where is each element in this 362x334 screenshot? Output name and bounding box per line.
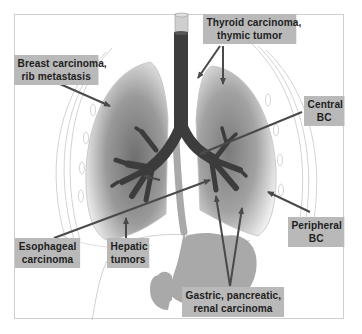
label-breast-carcinoma: Breast carcinoma, rib metastasis (14, 55, 98, 85)
label-line: tumors (111, 253, 146, 266)
label-line: thymic tumor (207, 29, 293, 42)
label-line: Hepatic (111, 240, 146, 253)
esophagus (176, 140, 184, 232)
label-thyroid-carcinoma: Thyroid carcinoma, thymic tumor (203, 14, 296, 44)
label-gastric-pancreatic-renal: Gastric, pancreatic, renal carcinoma (182, 287, 284, 317)
label-central-bc: Central BC (304, 96, 344, 126)
label-line: Breast carcinoma, (18, 57, 95, 70)
label-peripheral-bc: Peripheral BC (288, 217, 344, 247)
label-line: BC (308, 111, 341, 124)
label-line: BC (292, 232, 341, 245)
label-line: Peripheral (292, 219, 341, 232)
label-line: carcinoma (19, 253, 77, 266)
label-line: Esophageal (19, 240, 77, 253)
label-line: renal carcinoma (186, 302, 281, 315)
label-hepatic-tumors: Hepatic tumors (107, 238, 149, 268)
trachea (174, 32, 188, 132)
label-line: Central (308, 98, 341, 111)
label-esophageal-carcinoma: Esophageal carcinoma (15, 238, 80, 268)
label-line: Gastric, pancreatic, (186, 289, 281, 302)
anatomy-illustration (0, 0, 362, 334)
label-line: rib metastasis (18, 70, 95, 83)
label-line: Thyroid carcinoma, (207, 16, 293, 29)
